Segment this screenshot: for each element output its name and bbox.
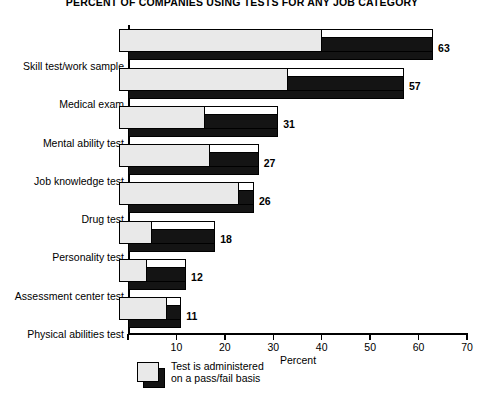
x-axis-tick bbox=[466, 334, 467, 340]
bar-value-label: 11 bbox=[186, 310, 197, 322]
bar-passfail bbox=[119, 144, 210, 167]
x-axis-tick-label: 10 bbox=[161, 341, 191, 353]
bar-passfail bbox=[119, 106, 205, 129]
x-axis-tick bbox=[321, 334, 322, 340]
bar-value-label: 12 bbox=[191, 271, 203, 283]
bar-value-label: 63 bbox=[438, 42, 450, 54]
chart-title: PERCENT OF COMPANIES USING TESTS FOR ANY… bbox=[0, 0, 484, 8]
category-label: Personality test bbox=[0, 252, 124, 263]
x-axis-tick bbox=[127, 334, 128, 340]
category-label: Physical abilities test bbox=[0, 329, 124, 340]
bar-passfail bbox=[119, 297, 167, 320]
bar-value-label: 26 bbox=[259, 195, 271, 207]
x-axis-tick bbox=[224, 334, 225, 340]
bar-passfail bbox=[119, 68, 288, 91]
bar-value-label: 27 bbox=[264, 157, 276, 169]
bar-passfail bbox=[119, 221, 152, 244]
category-label: Job knowledge test bbox=[0, 176, 124, 187]
x-axis-tick bbox=[176, 334, 177, 340]
category-label: Medical exam bbox=[0, 99, 124, 110]
legend-label-passfail: Test is administered on a pass/fail basi… bbox=[171, 361, 264, 384]
bar-value-label: 31 bbox=[283, 118, 295, 130]
x-axis-tick-label: 20 bbox=[210, 341, 240, 353]
x-axis-tick-label: 70 bbox=[452, 341, 482, 353]
legend-swatch-passfail bbox=[137, 362, 159, 382]
bar-passfail bbox=[119, 29, 322, 52]
bar-chart: PERCENT OF COMPANIES USING TESTS FOR ANY… bbox=[0, 0, 484, 394]
x-axis-tick-label: 50 bbox=[355, 341, 385, 353]
category-label: Drug test bbox=[0, 214, 124, 225]
x-axis-tick-label: 30 bbox=[258, 341, 288, 353]
bar-value-label: 18 bbox=[220, 233, 232, 245]
x-axis-tick bbox=[273, 334, 274, 340]
bar-passfail bbox=[119, 182, 239, 205]
category-axis-labels: Skill test/work sampleMedical examMental… bbox=[0, 27, 124, 333]
bar-passfail bbox=[119, 259, 147, 282]
category-label: Skill test/work sample bbox=[0, 61, 124, 72]
x-axis-tick bbox=[369, 334, 370, 340]
bar-value-label: 57 bbox=[409, 80, 421, 92]
x-axis-tick-label: 60 bbox=[404, 341, 434, 353]
x-axis-tick-label: 40 bbox=[307, 341, 337, 353]
x-axis-tick bbox=[418, 334, 419, 340]
category-label: Mental ability test bbox=[0, 138, 124, 149]
category-label: Assessment center test bbox=[0, 291, 124, 302]
chart-legend: Test is administered on a pass/fail basi… bbox=[137, 362, 387, 392]
